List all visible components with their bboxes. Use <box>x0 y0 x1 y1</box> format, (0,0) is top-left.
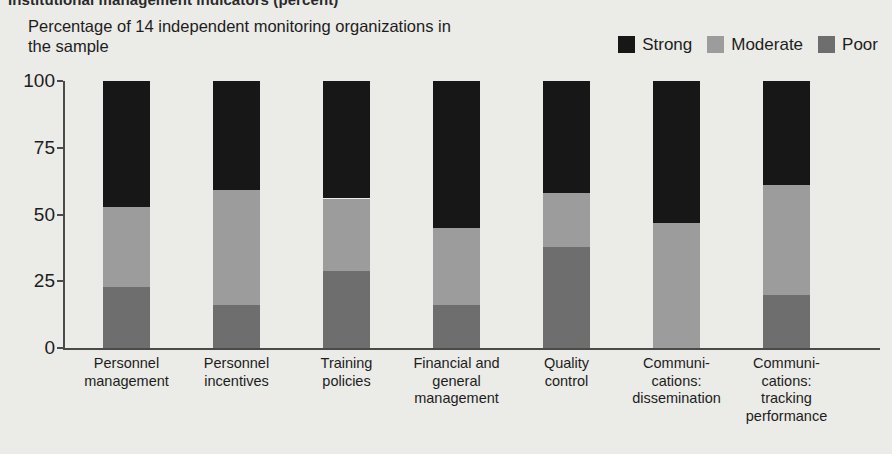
x-axis-category-labels: PersonnelmanagementPersonnelincentivesTr… <box>63 355 880 450</box>
figure-top-title: Institutional management indicators (per… <box>8 0 338 8</box>
x-axis-label-line: incentives <box>176 373 298 391</box>
chart-legend: Strong Moderate Poor <box>618 36 878 53</box>
chart-figure: Institutional management indicators (per… <box>0 0 892 454</box>
bar-segment-strong <box>103 81 150 206</box>
figure-subtitle: Percentage of 14 independent monitoring … <box>28 16 458 56</box>
x-axis-label-line: Communi- <box>616 355 738 373</box>
legend-swatch-moderate <box>707 36 724 53</box>
plot-area: 1007550250 <box>63 81 880 348</box>
bar-group <box>763 81 810 348</box>
legend-label-strong: Strong <box>642 36 692 53</box>
x-axis-label-line: performance <box>726 408 848 426</box>
x-axis-line <box>63 348 880 350</box>
x-axis-label: Communi-cations:trackingperformance <box>726 355 848 425</box>
x-axis-label-line: Financial and <box>396 355 518 373</box>
x-axis-label-line: Personnel <box>176 355 298 373</box>
bar-segment-moderate <box>763 185 810 294</box>
bar-segment-strong <box>763 81 810 185</box>
x-axis-label-line: cations: <box>726 373 848 391</box>
x-axis-label-line: Personnel <box>66 355 188 373</box>
y-axis-tick-label: 0 <box>44 337 55 359</box>
bar-series-container <box>63 81 880 348</box>
bar-group <box>653 81 700 348</box>
x-axis-label-line: control <box>506 373 628 391</box>
bar-segment-poor <box>433 305 480 348</box>
bar-segment-strong <box>323 81 370 198</box>
x-axis-label-line: management <box>396 390 518 408</box>
x-axis-label: Communi-cations:dissemination <box>616 355 738 408</box>
legend-label-moderate: Moderate <box>731 36 803 53</box>
x-axis-label-line: policies <box>286 373 408 391</box>
x-axis-label-line: Training <box>286 355 408 373</box>
bar-segment-poor <box>213 305 260 348</box>
bar-segment-strong <box>543 81 590 193</box>
x-axis-label-line: Quality <box>506 355 628 373</box>
x-axis-label: Trainingpolicies <box>286 355 408 390</box>
bar-group <box>323 81 370 348</box>
bar-segment-poor <box>543 247 590 348</box>
y-axis-tick-label: 100 <box>23 70 55 92</box>
x-axis-label-line: general <box>396 373 518 391</box>
legend-swatch-poor <box>818 36 835 53</box>
x-axis-label: Personnelmanagement <box>66 355 188 390</box>
bar-segment-moderate <box>653 223 700 348</box>
y-axis-tick-label: 25 <box>34 270 55 292</box>
bar-group <box>213 81 260 348</box>
x-axis-label: Qualitycontrol <box>506 355 628 390</box>
x-axis-label-line: management <box>66 373 188 391</box>
y-axis-tick-label: 75 <box>34 137 55 159</box>
bar-segment-poor <box>323 271 370 348</box>
bar-segment-strong <box>213 81 260 190</box>
x-axis-label-line: dissemination <box>616 390 738 408</box>
x-axis-label-line: Communi- <box>726 355 848 373</box>
x-axis-label: Financial andgeneralmanagement <box>396 355 518 408</box>
legend-swatch-strong <box>618 36 635 53</box>
bar-segment-poor <box>763 295 810 348</box>
legend-item-strong: Strong <box>618 36 692 53</box>
bar-segment-moderate <box>103 207 150 287</box>
bar-segment-moderate <box>323 199 370 271</box>
bar-segment-strong <box>653 81 700 223</box>
bar-segment-strong <box>433 81 480 228</box>
bar-group <box>433 81 480 348</box>
bar-segment-poor <box>103 287 150 348</box>
x-axis-label-line: tracking <box>726 390 848 408</box>
bar-segment-moderate <box>433 228 480 305</box>
bar-segment-moderate <box>543 193 590 246</box>
bar-group <box>103 81 150 348</box>
bar-group <box>543 81 590 348</box>
legend-label-poor: Poor <box>842 36 878 53</box>
x-axis-label: Personnelincentives <box>176 355 298 390</box>
y-axis-tick-label: 50 <box>34 204 55 226</box>
x-axis-label-line: cations: <box>616 373 738 391</box>
bar-segment-moderate <box>213 190 260 305</box>
legend-item-moderate: Moderate <box>707 36 803 53</box>
legend-item-poor: Poor <box>818 36 878 53</box>
